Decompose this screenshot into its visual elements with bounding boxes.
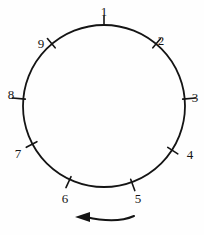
tick-label-5: 5 [135, 191, 142, 206]
tick-label-9: 9 [38, 36, 45, 51]
main-circle [23, 25, 185, 187]
tick-label-1: 1 [101, 4, 108, 19]
tick-label-4: 4 [187, 147, 194, 162]
tick-label-7: 7 [15, 146, 22, 161]
tick-label-group: 123456789 [8, 4, 199, 206]
arrow-curve-path [86, 216, 134, 220]
tick-label-2: 2 [158, 33, 165, 48]
figure-canvas: 123456789 [0, 0, 204, 235]
arrow-head-path [75, 212, 90, 222]
circle-tick-diagram: 123456789 [0, 0, 204, 235]
tick-mark-8 [12, 98, 25, 99]
tick-label-6: 6 [62, 191, 69, 206]
tick-label-3: 3 [192, 90, 199, 105]
counterclockwise-arrow [75, 212, 134, 222]
tick-label-8: 8 [8, 87, 15, 102]
